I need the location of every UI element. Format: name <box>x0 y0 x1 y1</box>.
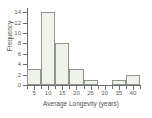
x-axis-minor-tick <box>41 86 42 89</box>
histogram-bar <box>41 12 55 85</box>
histogram-chart: Frequency 02468101214 510152025303540 Av… <box>0 0 152 118</box>
histogram-bar <box>126 75 140 85</box>
histogram-bar <box>27 69 41 85</box>
x-axis-minor-tick <box>55 86 56 89</box>
y-axis-tick-label: 0 <box>6 82 21 88</box>
x-axis-minor-tick <box>112 86 113 89</box>
x-axis-minor-tick <box>69 86 70 89</box>
bars-layer <box>27 9 140 85</box>
histogram-bar <box>69 69 83 85</box>
histogram-bar <box>112 80 126 85</box>
y-axis-tick-label: 12 <box>6 20 21 26</box>
histogram-bar <box>84 80 98 85</box>
histogram-bar <box>55 43 69 85</box>
x-axis-minor-tick <box>98 86 99 89</box>
x-axis-tick-label: 40 <box>122 90 144 97</box>
x-axis-title: Average Longevity (years) <box>14 100 148 108</box>
y-axis-tick-label: 10 <box>6 30 21 36</box>
x-axis-minor-tick <box>126 86 127 89</box>
y-axis-tick-label: 6 <box>6 51 21 57</box>
x-axis-minor-tick <box>84 86 85 89</box>
x-axis-minor-tick <box>140 86 141 89</box>
y-axis-tick-label: 8 <box>6 40 21 46</box>
y-axis-tick-label: 2 <box>6 72 21 78</box>
y-axis-tick-label: 14 <box>6 9 21 15</box>
plot-area <box>27 9 140 85</box>
y-axis-tick-label: 4 <box>6 61 21 67</box>
x-axis-minor-tick <box>27 86 28 89</box>
